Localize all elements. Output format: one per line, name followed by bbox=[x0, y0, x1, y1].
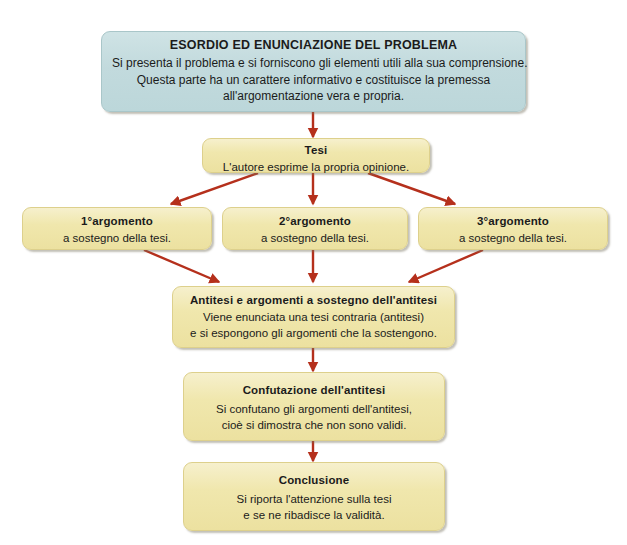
node-tesi-body: L'autore esprime la propria opinione. bbox=[213, 160, 419, 176]
node-confutazione-title: Confutazione dell'antitesi bbox=[194, 383, 434, 398]
clipped-header-text bbox=[0, 0, 627, 3]
edge-tesi-argomento3 bbox=[368, 173, 455, 204]
node-tesi: Tesi L'autore esprime la propria opinion… bbox=[202, 138, 430, 173]
node-antitesi-body: Viene enunciata una tesi contraria (anti… bbox=[183, 310, 444, 341]
node-confutazione-body: Si confutano gli argomenti dell'antitesi… bbox=[194, 402, 434, 433]
node-esordio: ESORDIO ED ENUNCIAZIONE DEL PROBLEMA Si … bbox=[101, 31, 526, 112]
node-argomento2-body: a sostegno della tesi. bbox=[233, 231, 397, 247]
node-argomento1-title: 1°argomento bbox=[33, 214, 201, 229]
node-conclusione: Conclusione Si riporta l'attenzione sull… bbox=[183, 462, 445, 531]
node-argomento1-body: a sostegno della tesi. bbox=[33, 231, 201, 247]
node-confutazione: Confutazione dell'antitesi Si confutano … bbox=[183, 372, 445, 441]
node-argomento2: 2°argomento a sostegno della tesi. bbox=[222, 207, 408, 250]
node-argomento3: 3°argomento a sostegno della tesi. bbox=[418, 207, 608, 250]
node-argomento3-body: a sostegno della tesi. bbox=[429, 231, 597, 247]
node-antitesi-title: Antitesi e argomenti a sostegno dell'ant… bbox=[183, 293, 444, 308]
node-conclusione-body: Si riporta l'attenzione sulla tesi e se … bbox=[194, 492, 434, 523]
node-argomento3-title: 3°argomento bbox=[429, 214, 597, 229]
node-conclusione-title: Conclusione bbox=[194, 473, 434, 488]
node-argomento2-title: 2°argomento bbox=[233, 214, 397, 229]
edge-tesi-argomento1 bbox=[171, 173, 258, 204]
node-antitesi: Antitesi e argomenti a sostegno dell'ant… bbox=[172, 286, 455, 348]
edge-argomento1-antitesi bbox=[144, 250, 219, 282]
node-argomento1: 1°argomento a sostegno della tesi. bbox=[22, 207, 212, 250]
argumentative-text-diagram: ESORDIO ED ENUNCIAZIONE DEL PROBLEMA Si … bbox=[0, 0, 627, 545]
node-tesi-title: Tesi bbox=[213, 143, 419, 158]
node-esordio-title: ESORDIO ED ENUNCIAZIONE DEL PROBLEMA bbox=[112, 38, 515, 53]
edge-argomento3-antitesi bbox=[409, 250, 483, 282]
node-esordio-body: Si presenta il problema e si forniscono … bbox=[112, 55, 515, 105]
